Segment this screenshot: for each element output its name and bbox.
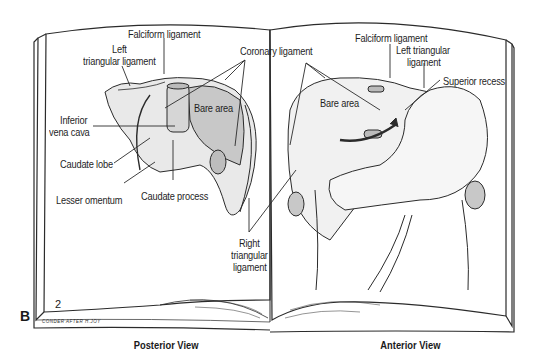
label-lesser-omentum: Lesser omentum <box>56 194 122 206</box>
label-bare-area-anterior: Bare area <box>320 97 359 109</box>
label-coronary-ligament: Coronary ligament <box>240 45 313 57</box>
label-inferior-vena-cava-line1: Inferior <box>60 114 87 126</box>
figure-letter: B <box>20 308 30 324</box>
page-number: 2 <box>55 298 61 310</box>
label-left-triangular-ligament-posterior-line2: triangular ligament <box>83 55 156 67</box>
label-falciform-ligament-posterior: Falciform ligament <box>128 28 200 40</box>
label-caudate-lobe: Caudate lobe <box>60 158 113 170</box>
label-right-triangular-ligament-line2: triangular <box>231 249 268 261</box>
label-inferior-vena-cava-line2: vena cava <box>49 126 90 138</box>
label-right-triangular-ligament-line3: ligament <box>233 261 267 273</box>
label-right-triangular-ligament-line1: Right <box>239 237 260 249</box>
label-falciform-ligament-anterior: Falciform ligament <box>355 32 427 44</box>
label-bare-area-posterior: Bare area <box>194 102 233 114</box>
illustrator-credit: CONDER AFTER H.JOY <box>42 319 101 324</box>
caption-anterior-view: Anterior View <box>380 339 440 351</box>
label-left-triangular-ligament-anterior-line1: Left triangular <box>396 44 450 56</box>
label-caudate-process: Caudate process <box>141 190 208 202</box>
label-superior-recess: Superior recess <box>443 75 505 87</box>
label-left-triangular-ligament-posterior-line1: Left <box>112 43 127 55</box>
label-left-triangular-ligament-anterior-line2: ligament <box>407 56 441 68</box>
caption-posterior-view: Posterior View <box>134 339 199 351</box>
